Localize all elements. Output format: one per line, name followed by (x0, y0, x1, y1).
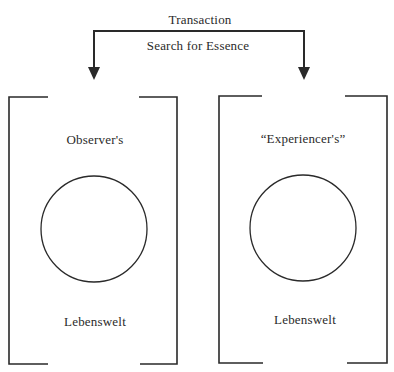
observer-circle (41, 176, 147, 282)
observer-label: Observer's (66, 132, 123, 148)
arrowheads (88, 67, 310, 80)
experiencer-lebenswelt-label: Lebenswelt (274, 312, 336, 328)
transaction-label: Transaction (168, 12, 231, 28)
experiencer-label: “Experiencer's” (261, 131, 346, 147)
arrow-down-right-icon (298, 67, 310, 80)
arrow-down-left-icon (88, 67, 100, 80)
observer-lebenswelt-label: Lebenswelt (64, 314, 126, 330)
search-for-essence-label: Search for Essence (147, 38, 250, 54)
experiencer-circle (250, 175, 356, 281)
